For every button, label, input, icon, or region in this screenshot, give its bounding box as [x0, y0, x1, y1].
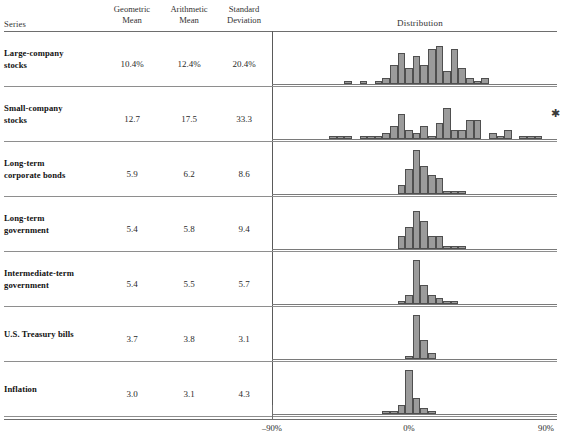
header-distribution-label: Distribution: [360, 18, 480, 28]
histogram-bar: [443, 71, 451, 84]
header-geometric-mean-line2: Mean: [100, 15, 164, 26]
histogram-bar: [398, 185, 406, 194]
histogram-bar: [458, 246, 466, 249]
histogram-bar: [367, 136, 375, 139]
histogram-bar: [337, 136, 345, 139]
histogram-bar: [451, 301, 459, 304]
histogram-bar: [489, 133, 497, 139]
histogram-bar: [420, 285, 428, 304]
histogram-bar: [398, 405, 406, 414]
row-label-line2: government: [4, 280, 109, 292]
histogram-bar: [436, 46, 444, 84]
histogram-bar: [428, 175, 436, 194]
histogram-bar: [420, 221, 428, 249]
histogram-bar: [420, 65, 428, 84]
histogram-bar: [382, 133, 390, 139]
histogram-bar: [458, 68, 466, 84]
histogram-bar: [497, 136, 505, 139]
histogram-bar: [344, 81, 352, 84]
histogram-bar: [527, 136, 535, 139]
histogram-baseline: [272, 359, 557, 360]
histogram-bar: [420, 340, 428, 359]
histogram-bar: [458, 130, 466, 139]
histogram-bar: [458, 191, 466, 194]
cell-geometric-mean: 3.0: [100, 389, 164, 399]
histogram-bar: [436, 123, 444, 139]
histogram-bar: [405, 227, 413, 249]
histogram-bar: [443, 301, 451, 304]
histogram-bar: [428, 411, 436, 414]
row-label: Intermediate-termgovernment: [4, 268, 109, 291]
histogram-baseline: [272, 139, 557, 140]
row-label-line1: Large-company: [4, 48, 64, 58]
histogram-bar: [474, 120, 482, 139]
histogram-bar: [436, 178, 444, 194]
histogram-bar: [405, 295, 413, 304]
row-label: Small-companystocks: [4, 103, 109, 126]
histogram-bar: [443, 246, 451, 249]
header-geometric-mean: Geometric Mean: [100, 4, 164, 25]
row-label-line1: Intermediate-term: [4, 268, 74, 278]
row-label-line2: stocks: [4, 60, 109, 72]
histogram-bar: [436, 236, 444, 249]
histogram-bar: [474, 81, 482, 84]
axis-label-max: 90%: [516, 423, 565, 433]
cell-geometric-mean: 10.4%: [100, 59, 164, 69]
histogram-bar: [405, 68, 413, 84]
row-label: Long-termgovernment: [4, 213, 109, 236]
cell-standard-deviation: 9.4: [212, 224, 276, 234]
header-standard-deviation-line1: Standard: [229, 4, 260, 14]
returns-distribution-table: Series Geometric Mean Arithmetic Mean St…: [0, 0, 565, 444]
histogram-bar: [420, 408, 428, 414]
histogram-bar: [405, 169, 413, 194]
cell-standard-deviation: 20.4%: [212, 59, 276, 69]
row-label-line1: Long-term: [4, 213, 45, 223]
histogram-baseline: [272, 194, 557, 195]
histogram-bar: [428, 49, 436, 84]
distribution-histogram: [272, 86, 557, 141]
histogram-bar: [398, 114, 406, 139]
histogram-bar: [428, 295, 436, 304]
histogram-bar: [443, 108, 451, 139]
histogram-bar: [398, 53, 406, 84]
cell-standard-deviation: 5.7: [212, 279, 276, 289]
histogram-bar: [405, 356, 413, 359]
histogram-baseline: [272, 414, 557, 415]
row-label: Inflation: [4, 384, 109, 396]
histogram-bar: [390, 65, 398, 84]
cell-geometric-mean: 3.7: [100, 334, 164, 344]
row-label: Large-companystocks: [4, 48, 109, 71]
histogram-bar: [413, 211, 421, 249]
histogram-bar: [413, 56, 421, 84]
histogram-bar: [413, 150, 421, 194]
axis-tick-min: [272, 405, 273, 419]
histogram-bar: [405, 370, 413, 414]
header-arithmetic-mean-line1: Arithmetic: [170, 4, 207, 14]
histogram-bar: [390, 126, 398, 139]
distribution-histogram: [272, 196, 557, 251]
histogram-baseline: [272, 249, 557, 250]
histogram-bar: [519, 136, 527, 139]
histogram-bar: [436, 298, 444, 304]
cell-geometric-mean: 12.7: [100, 114, 164, 124]
cell-geometric-mean: 5.4: [100, 224, 164, 234]
cell-standard-deviation: 8.6: [212, 169, 276, 179]
histogram-bar: [481, 78, 489, 84]
histogram-bar: [504, 130, 512, 139]
histogram-bar: [443, 191, 451, 194]
histogram-bar: [451, 191, 459, 194]
row-label: Long-termcorporate bonds: [4, 158, 109, 181]
footnote-asterisk-icon: ✱: [551, 108, 560, 119]
histogram-bar: [535, 136, 543, 139]
row-label-line2: government: [4, 225, 109, 237]
distribution-histogram: [272, 141, 557, 196]
row-label-line2: corporate bonds: [4, 170, 109, 182]
cell-geometric-mean: 5.9: [100, 169, 164, 179]
histogram-bar: [398, 301, 406, 304]
cell-standard-deviation: 33.3: [212, 114, 276, 124]
histogram-baseline: [272, 84, 557, 85]
row-label-line1: Small-company: [4, 103, 63, 113]
histogram-baseline: [272, 304, 557, 305]
row-label-line1: U.S. Treasury bills: [4, 329, 74, 339]
row-label-line1: Long-term: [4, 158, 45, 168]
